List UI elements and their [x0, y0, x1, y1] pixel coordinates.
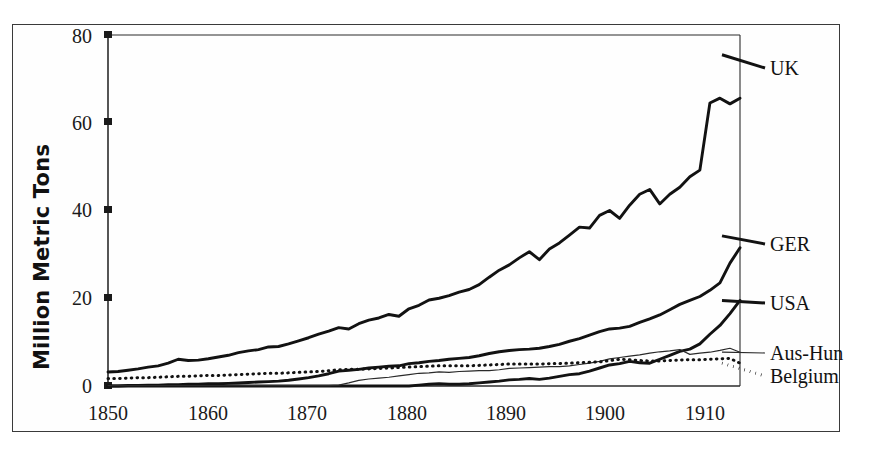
- series-path-aus-hun: [108, 348, 740, 385]
- ytick-mark-80: [104, 31, 112, 38]
- series-path-ger: [108, 248, 740, 386]
- leader-line-usa: [722, 300, 765, 303]
- leader-line-ger: [722, 236, 765, 244]
- leader-line-aus-hun: [722, 352, 765, 353]
- leader-line-uk: [722, 55, 765, 68]
- ytick-mark-40: [104, 206, 112, 213]
- ytick-mark-60: [104, 118, 112, 125]
- leader-line-belgium: [722, 363, 765, 376]
- chart-svg: [0, 0, 870, 456]
- ytick-mark-20: [104, 294, 112, 301]
- series-paths: [108, 98, 740, 386]
- figure-container: 80 60 40 20 0 Million Metric Tons 1850 1…: [0, 0, 870, 456]
- axis-lines: [108, 35, 740, 386]
- series-path-uk: [108, 98, 740, 372]
